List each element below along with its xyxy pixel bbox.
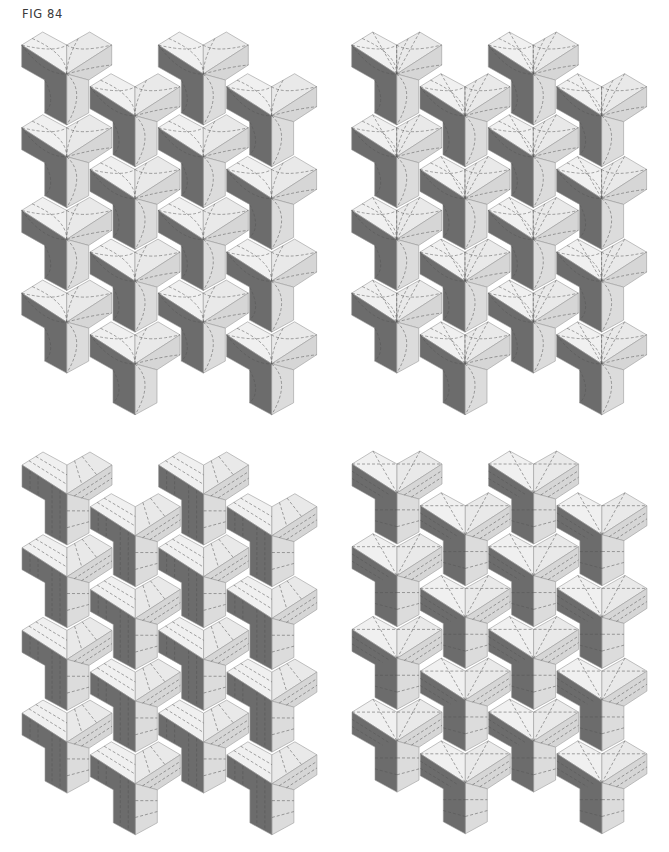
stem-right-face xyxy=(67,322,89,373)
quilt-panel-bottom-right xyxy=(352,451,647,834)
y-block-unit xyxy=(90,742,180,835)
stem-right-face xyxy=(203,322,225,373)
quilt-panel-top-right xyxy=(352,32,647,415)
y-block-unit xyxy=(227,322,317,415)
y-block-unit xyxy=(557,741,647,834)
quilt-panel-top-left xyxy=(22,32,317,415)
y-block-unit xyxy=(420,322,510,415)
stem-right-face xyxy=(602,783,624,834)
stem-right-face xyxy=(204,742,226,793)
y-block-unit xyxy=(420,741,510,834)
quilt-panel-bottom-left xyxy=(22,452,317,835)
stem-right-face xyxy=(135,364,157,415)
stem-right-face xyxy=(272,364,294,415)
stem-right-face xyxy=(272,784,294,835)
stem-right-face xyxy=(465,783,487,834)
stem-right-face xyxy=(135,784,157,835)
y-block-unit xyxy=(90,322,180,415)
y-block-unit xyxy=(557,322,647,415)
stem-right-face xyxy=(465,364,487,415)
stem-right-face xyxy=(397,322,419,373)
quilt-figure xyxy=(0,0,669,852)
y-block-unit xyxy=(227,742,317,835)
stem-right-face xyxy=(602,364,624,415)
stem-right-face xyxy=(67,742,89,793)
stem-right-face xyxy=(397,741,419,792)
stem-right-face xyxy=(534,741,556,792)
stem-right-face xyxy=(533,322,555,373)
